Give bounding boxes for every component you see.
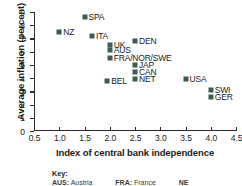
x-tick-mark: 4.5 — [236, 127, 237, 131]
data-point-marker[interactable] — [107, 56, 112, 61]
legend-key-name: France — [132, 179, 156, 186]
data-point-marker[interactable] — [107, 43, 112, 48]
y-tick-label: 1 — [20, 114, 25, 123]
y-tick-mark: 8 — [30, 25, 34, 26]
legend-key-name: Austria — [69, 179, 92, 186]
data-point-label: GER — [215, 92, 233, 101]
data-point-label: BEL — [111, 77, 126, 86]
x-tick-label: 4.5 — [231, 134, 242, 143]
data-point-label: NZ — [63, 28, 74, 37]
data-point-marker[interactable] — [208, 94, 213, 99]
x-tick-label: 2.0 — [104, 134, 116, 143]
y-tick-mark: 9 — [30, 12, 34, 13]
y-tick-label: 2 — [20, 101, 25, 110]
legend-key-entry: FRA: France — [115, 179, 178, 186]
data-point-label: DEN — [139, 37, 156, 46]
legend-key-entry: AUS: Austria — [52, 179, 115, 186]
data-point-marker[interactable] — [107, 48, 112, 53]
data-point-marker[interactable] — [133, 62, 138, 67]
y-tick-label: 4 — [20, 74, 25, 83]
data-point-marker[interactable] — [133, 69, 138, 74]
legend-key-title: Key: — [52, 170, 242, 178]
x-tick-label: 3.5 — [180, 134, 192, 143]
inflation-vs-cbi-scatter-figure: Average inflation (percent) 0123456789 0… — [0, 0, 242, 186]
y-tick-label: 3 — [20, 88, 25, 97]
x-tick-label: 0.5 — [29, 134, 41, 143]
legend-key-entry: NE — [179, 179, 242, 186]
y-tick-mark: 6 — [30, 52, 34, 53]
y-tick-label: 0 — [20, 127, 25, 136]
x-tick-mark: 1.0 — [59, 127, 60, 131]
data-point-marker[interactable] — [208, 88, 213, 93]
y-tick-mark: 7 — [30, 38, 34, 39]
data-point-marker[interactable] — [105, 78, 110, 83]
data-point-label: USA — [190, 75, 207, 84]
x-tick-mark: 3.5 — [186, 127, 187, 131]
y-axis-line — [34, 12, 35, 131]
x-tick-mark: 0.5 — [34, 127, 35, 131]
x-tick-mark: 2.5 — [135, 127, 136, 131]
legend-key-abbr: AUS: — [52, 179, 69, 186]
data-point-label: ITA — [96, 32, 108, 41]
y-tick-mark: 0 — [30, 131, 34, 132]
y-tick-label: 7 — [20, 35, 25, 44]
x-tick-mark: 1.5 — [85, 127, 86, 131]
data-point-marker[interactable] — [90, 33, 95, 38]
x-tick-mark: 3.0 — [160, 127, 161, 131]
y-tick-mark: 4 — [30, 78, 34, 79]
y-tick-label: 9 — [20, 8, 25, 17]
x-tick-label: 1.5 — [79, 134, 91, 143]
x-tick-mark: 4.0 — [211, 127, 212, 131]
y-tick-mark: 5 — [30, 65, 34, 66]
y-tick-label: 5 — [20, 61, 25, 70]
legend-key: Key: AUS: AustriaFRA: FranceNE — [52, 170, 242, 186]
data-point-marker[interactable] — [57, 29, 62, 34]
x-tick-label: 2.5 — [130, 134, 142, 143]
x-axis-title: Index of central bank independence — [34, 147, 236, 158]
plot-area: 0123456789 0.51.01.52.02.53.03.54.04.5 S… — [34, 12, 236, 131]
y-tick-mark: 1 — [30, 118, 34, 119]
data-point-marker[interactable] — [133, 77, 138, 82]
data-point-marker[interactable] — [183, 77, 188, 82]
data-point-label: NET — [139, 75, 155, 84]
y-tick-label: 6 — [20, 48, 25, 57]
x-tick-label: 1.0 — [54, 134, 66, 143]
y-tick-label: 8 — [20, 22, 25, 31]
y-tick-mark: 2 — [30, 105, 34, 106]
x-tick-label: 3.0 — [155, 134, 167, 143]
data-point-marker[interactable] — [82, 15, 87, 20]
legend-key-row: AUS: AustriaFRA: FranceNE — [52, 179, 242, 186]
data-point-marker[interactable] — [133, 39, 138, 44]
y-tick-mark: 3 — [30, 91, 34, 92]
data-point-label: SPA — [89, 13, 105, 22]
legend-key-abbr: FRA: — [115, 179, 132, 186]
legend-key-abbr: NE — [179, 179, 189, 186]
x-tick-label: 4.0 — [205, 134, 217, 143]
x-tick-mark: 2.0 — [110, 127, 111, 131]
